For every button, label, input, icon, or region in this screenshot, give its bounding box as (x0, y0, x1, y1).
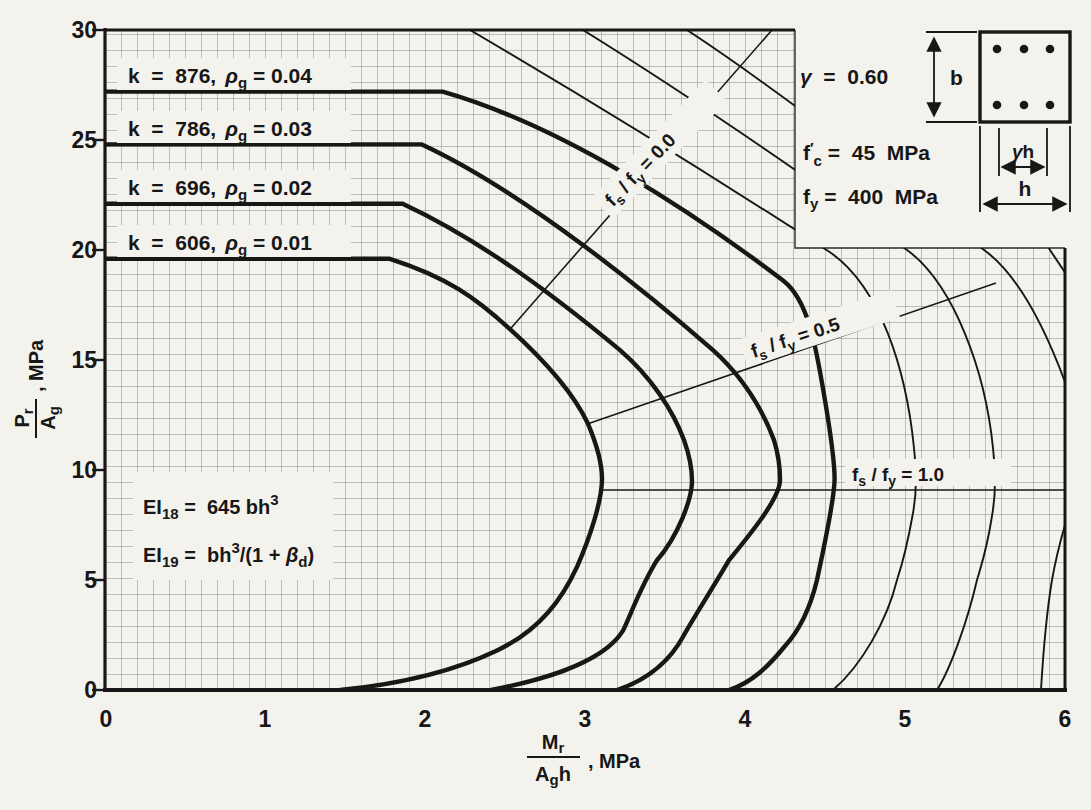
fy-annotation: fy = 400 MPa (803, 185, 938, 212)
gamma-h-dimension-label: γh (1012, 141, 1034, 162)
y-tick-label: 10 (71, 457, 97, 483)
ei-equations-box: EI18 = 645 bh3 EI19 = bh3/(1 + βd) (133, 472, 333, 580)
gamma-annotation: γ = 0.60 (800, 65, 888, 88)
y-tick-label: 15 (71, 347, 97, 373)
interaction-diagram-chart: 30 25 20 15 10 5 0 0 1 2 3 4 5 6 k = 876… (0, 0, 1091, 810)
y-tick-label: 5 (84, 567, 97, 593)
y-tick-label: 30 (71, 17, 97, 43)
x-tick-label: 6 (1059, 706, 1072, 732)
b-dimension-label: b (950, 66, 963, 89)
curve-label-rho-0.02: k = 696,ρg = 0.02 (117, 170, 351, 203)
y-tick-label: 20 (71, 237, 97, 263)
x-tick-label: 4 (739, 706, 752, 732)
y-tick-label: 0 (84, 677, 97, 703)
y-axis-unit: , MPa (25, 339, 47, 392)
h-dimension-label: h (1019, 177, 1032, 200)
x-tick-label: 0 (100, 706, 113, 732)
x-axis-unit: , MPa (588, 750, 641, 772)
fs-fy-10-label: fs / fy = 1.0 (845, 459, 1011, 489)
x-tick-label: 3 (579, 706, 592, 732)
curve-label-rho-0.01: k = 606,ρg = 0.01 (117, 225, 351, 258)
column-interaction-diagram-page: 30 25 20 15 10 5 0 0 1 2 3 4 5 6 k = 876… (0, 0, 1091, 810)
x-tick-label: 2 (419, 706, 432, 732)
curve-label-rho-0.03: k = 786,ρg = 0.03 (117, 111, 351, 144)
x-tick-label: 5 (899, 706, 912, 732)
y-tick-label: 25 (71, 127, 97, 153)
curve-label-rho-0.04: k = 876,ρg = 0.04 (117, 58, 351, 91)
x-tick-label: 1 (259, 706, 272, 732)
